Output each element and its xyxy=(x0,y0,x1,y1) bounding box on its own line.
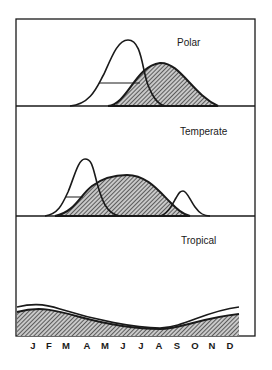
month-label: A xyxy=(84,340,91,351)
month-axis: J F M A M J J A S O N D xyxy=(30,340,233,351)
polar-hatched-curve xyxy=(108,63,218,106)
month-label: N xyxy=(209,340,216,351)
seasonal-cycle-diagram: Polar Temperate Tropical J F M A M J J A… xyxy=(0,0,272,370)
month-label: A xyxy=(156,340,163,351)
tropical-hatched-curve xyxy=(17,309,239,336)
month-label: D xyxy=(227,340,234,351)
panel-label-polar: Polar xyxy=(177,37,201,48)
panel-polar: Polar xyxy=(70,37,218,106)
month-label: J xyxy=(30,340,35,351)
month-label: M xyxy=(62,340,70,351)
panel-label-tropical: Tropical xyxy=(181,235,216,246)
month-label: F xyxy=(46,340,52,351)
month-label: J xyxy=(120,340,125,351)
panel-label-temperate: Temperate xyxy=(180,126,228,137)
panel-tropical: Tropical xyxy=(17,235,239,336)
month-label: S xyxy=(174,340,180,351)
month-label: O xyxy=(191,340,198,351)
panel-temperate: Temperate xyxy=(45,126,228,216)
month-label: J xyxy=(138,340,143,351)
month-label: M xyxy=(101,340,109,351)
